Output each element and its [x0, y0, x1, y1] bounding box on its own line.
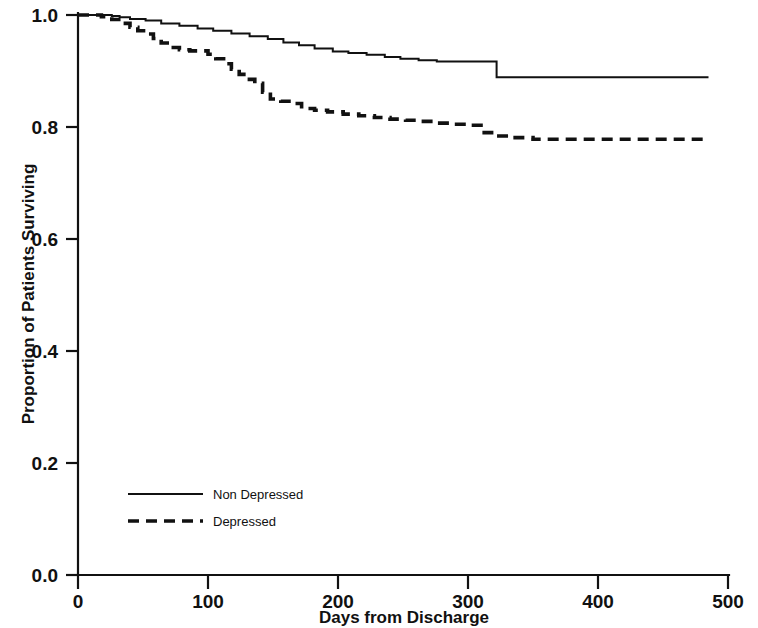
- y-tick-label: 0.8: [32, 117, 58, 138]
- series-group: [78, 15, 709, 140]
- x-tick-label: 400: [582, 591, 614, 612]
- x-tick-label: 500: [712, 591, 744, 612]
- y-axis-ticks: 0.00.20.40.60.81.0: [32, 5, 78, 586]
- legend-label-non-depressed: Non Depressed: [213, 487, 303, 502]
- x-tick-label: 0: [73, 591, 84, 612]
- y-tick-label: 0.2: [32, 453, 58, 474]
- x-tick-label: 100: [192, 591, 224, 612]
- y-tick-label: 0.0: [32, 565, 58, 586]
- survival-chart-figure: 0.00.20.40.60.81.0 0100200300400500 Prop…: [0, 0, 758, 628]
- x-axis-title: Days from Discharge: [319, 608, 489, 627]
- axes-group: [78, 13, 729, 575]
- y-tick-label: 1.0: [32, 5, 58, 26]
- legend-label-depressed: Depressed: [213, 514, 276, 529]
- x-axis-ticks: 0100200300400500: [73, 575, 744, 612]
- legend: Non Depressed Depressed: [128, 487, 303, 529]
- kaplan-meier-plot: 0.00.20.40.60.81.0 0100200300400500 Prop…: [0, 0, 758, 628]
- y-axis-title: Proportion of Patients Surviving: [19, 164, 38, 425]
